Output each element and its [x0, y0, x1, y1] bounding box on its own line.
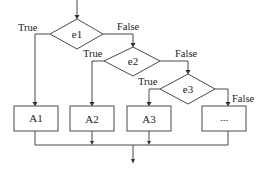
decision-e2-label: e2	[128, 55, 138, 67]
e3-false-label: False	[232, 93, 255, 104]
decision-e3-label: e3	[183, 83, 194, 95]
e2-false-connector	[160, 61, 188, 71]
e1-true-label: True	[18, 22, 38, 33]
e1-false-connector	[103, 34, 133, 44]
action-a2-label: A2	[85, 113, 98, 125]
e1-false-label: False	[117, 21, 140, 32]
action-a1-label: A1	[29, 112, 42, 124]
e1-true-connector	[35, 34, 50, 103]
action-a3-label: A3	[142, 113, 156, 125]
arrow-head-icon	[147, 141, 151, 145]
e2-true-connector	[92, 61, 104, 103]
e2-false-label: False	[175, 48, 198, 59]
arrow-head-icon	[131, 159, 135, 164]
e3-true-connector	[149, 89, 160, 103]
decision-e1-label: e1	[72, 28, 82, 40]
e3-false-connector	[215, 89, 228, 103]
e2-true-label: True	[83, 48, 103, 59]
flowchart: e1 True False e2 True False e3 True Fals…	[0, 0, 258, 180]
e3-true-label: True	[138, 76, 158, 87]
arrow-head-icon	[90, 141, 94, 145]
action-more-label: ...	[220, 111, 229, 123]
